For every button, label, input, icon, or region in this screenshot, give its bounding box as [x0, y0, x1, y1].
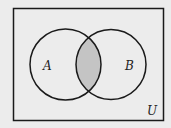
set-a-label: A: [42, 59, 52, 73]
venn-diagram: A B U: [0, 0, 171, 128]
set-b-label: B: [124, 59, 134, 73]
universe-label: U: [147, 104, 158, 118]
